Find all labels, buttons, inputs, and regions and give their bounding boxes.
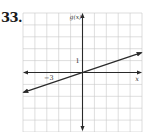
graph: g(x)x−31 xyxy=(0,0,147,132)
x-tick-label: −3 xyxy=(44,74,54,82)
y-tick-label: 1 xyxy=(75,57,79,65)
y-axis-label: g(x) xyxy=(70,13,83,21)
x-axis-label: x xyxy=(135,75,139,83)
